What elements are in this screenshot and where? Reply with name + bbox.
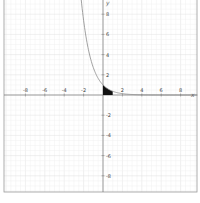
y-tick-label: -2 <box>106 112 111 118</box>
x-tick-label: 4 <box>140 87 143 93</box>
x-tick-label: -8 <box>23 87 28 93</box>
x-tick-label: 6 <box>160 87 163 93</box>
y-tick-label: 2 <box>106 72 109 78</box>
y-tick-label: -4 <box>106 132 111 138</box>
x-tick-label: 8 <box>179 87 182 93</box>
x-tick-label: -2 <box>81 87 86 93</box>
plot-frame <box>4 0 197 192</box>
x-tick-label: -4 <box>62 87 67 93</box>
y-tick-label: 8 <box>106 11 109 17</box>
y-tick-label: 6 <box>106 31 109 37</box>
x-axis-label: x <box>190 91 195 98</box>
grid-lines <box>4 0 197 192</box>
function-plot: -8-6-4-224688642-2-4-6-8 x y <box>0 0 200 203</box>
y-tick-label: -8 <box>106 173 111 179</box>
axes <box>4 0 197 192</box>
x-tick-label: 2 <box>121 87 124 93</box>
y-tick-label: -6 <box>106 153 111 159</box>
x-tick-label: -6 <box>42 87 47 93</box>
y-axis-label: y <box>105 0 110 7</box>
y-tick-label: 4 <box>106 52 109 58</box>
